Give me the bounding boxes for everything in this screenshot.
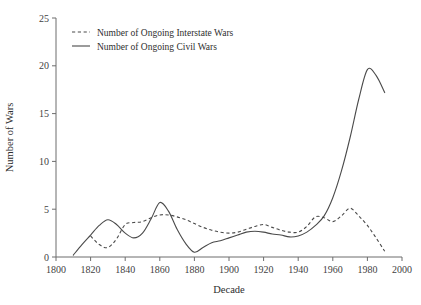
x-tick-label: 1840: [115, 264, 135, 275]
legend-label-1: Number of Ongoing Civil Wars: [97, 42, 217, 52]
x-tick-label: 1980: [357, 264, 377, 275]
x-tick-label: 1940: [288, 264, 308, 275]
x-tick-label: 1880: [184, 264, 204, 275]
x-tick-label: 1820: [81, 264, 101, 275]
x-tick-label: 2000: [392, 264, 412, 275]
x-tick-label: 1800: [46, 264, 66, 275]
series-path-1: [73, 68, 384, 255]
y-tick-label: 20: [39, 60, 49, 71]
y-tick-group: 0510152025: [39, 13, 56, 263]
y-tick-label: 5: [44, 204, 49, 215]
y-tick-label: 10: [39, 156, 49, 167]
y-tick-label: 15: [39, 108, 49, 119]
x-tick-label: 1900: [219, 264, 239, 275]
x-tick-group: 1800182018401860188019001920194019601980…: [46, 257, 412, 275]
x-axis: 1800182018401860188019001920194019601980…: [46, 257, 412, 275]
series-path-0: [91, 208, 385, 251]
y-tick-label: 0: [44, 252, 49, 263]
x-tick-label: 1920: [254, 264, 274, 275]
chart-container: 0510152025 18001820184018601880190019201…: [0, 0, 421, 305]
series-group: [73, 68, 384, 255]
x-tick-label: 1960: [323, 264, 343, 275]
legend: Number of Ongoing Interstate WarsNumber …: [72, 28, 234, 52]
wars-line-chart: 0510152025 18001820184018601880190019201…: [0, 0, 421, 305]
legend-label-0: Number of Ongoing Interstate Wars: [97, 28, 234, 38]
x-tick-label: 1860: [150, 264, 170, 275]
y-tick-label: 25: [39, 13, 49, 24]
y-axis-title: Number of Wars: [4, 103, 15, 173]
x-axis-title: Decade: [213, 284, 245, 295]
y-axis: 0510152025: [39, 13, 56, 263]
